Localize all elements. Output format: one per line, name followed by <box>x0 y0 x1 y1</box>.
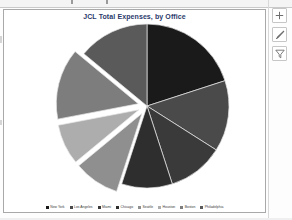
plus-icon <box>275 11 284 20</box>
pie-plot-area[interactable] <box>4 21 265 199</box>
legend-label: Miami <box>102 206 111 209</box>
ruler-tick <box>71 0 73 4</box>
clipped-ribbon-strip <box>0 0 292 8</box>
paintbrush-icon <box>275 30 285 40</box>
worksheet-bottom-edge <box>0 218 292 220</box>
legend-label: Los Angeles <box>74 206 92 209</box>
scan-artifact <box>0 36 2 43</box>
legend-swatch-icon <box>180 206 183 209</box>
legend-item[interactable]: Los Angeles <box>70 206 93 209</box>
pie-chart[interactable] <box>4 21 265 199</box>
legend-swatch-icon <box>98 206 101 209</box>
chart-screenshot: JCL Total Expenses, by Office New YorkLo… <box>0 0 292 220</box>
chart-elements-button[interactable] <box>272 8 287 23</box>
chart-filters-button[interactable] <box>272 46 287 61</box>
legend-item[interactable]: Boston <box>180 206 195 209</box>
legend-swatch-icon <box>158 206 161 209</box>
legend-item[interactable]: Philadelphia <box>200 206 223 209</box>
legend-item[interactable]: Houston <box>158 206 175 209</box>
chart-title: JCL Total Expenses, by Office <box>4 13 265 20</box>
ruler-tick <box>106 0 108 4</box>
legend-label: Philadelphia <box>205 206 223 209</box>
legend-swatch-icon <box>46 206 49 209</box>
legend-label: Boston <box>185 206 196 209</box>
chart-object[interactable]: JCL Total Expenses, by Office New YorkLo… <box>3 9 266 213</box>
legend-label: Houston <box>163 206 176 209</box>
legend-swatch-icon <box>116 206 119 209</box>
funnel-icon <box>275 49 285 59</box>
legend-item[interactable]: New York <box>46 206 65 209</box>
legend-label: New York <box>50 206 64 209</box>
scan-artifact <box>0 120 2 125</box>
worksheet-right-edge <box>268 0 269 220</box>
chart-tool-buttons[interactable] <box>272 8 287 61</box>
chart-styles-button[interactable] <box>272 27 287 42</box>
legend-swatch-icon <box>200 206 203 209</box>
legend-item[interactable]: Chicago <box>116 206 133 209</box>
chart-legend[interactable]: New YorkLos AngelesMiamiChicagoSeattleHo… <box>4 206 265 209</box>
legend-item[interactable]: Seattle <box>138 206 153 209</box>
legend-label: Chicago <box>121 206 133 209</box>
legend-item[interactable]: Miami <box>98 206 112 209</box>
legend-label: Seattle <box>143 206 154 209</box>
legend-swatch-icon <box>138 206 141 209</box>
legend-swatch-icon <box>70 206 73 209</box>
ribbon-divider <box>0 7 292 8</box>
